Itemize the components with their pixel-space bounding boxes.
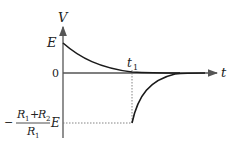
- denominator-r1: R: [26, 125, 35, 138]
- t1-label: t: [127, 56, 132, 70]
- numerator-r2: R: [37, 108, 46, 121]
- t1-subscript: 1: [133, 63, 138, 72]
- numerator-r1-sub: 1: [25, 115, 29, 123]
- e-label: E: [46, 35, 57, 50]
- neg-e-label: E: [50, 116, 60, 130]
- v-axis-label: V: [58, 10, 69, 25]
- recovery-curve: [132, 73, 205, 123]
- decay-curve: [63, 43, 180, 73]
- neg-minus-sign: −: [4, 116, 13, 129]
- numerator-r2-sub: 2: [46, 115, 50, 123]
- voltage-time-diagram: V t E 0 t 1 − R 1 + R 2 R 1 E: [0, 0, 232, 142]
- denominator-r1-sub: 1: [35, 132, 39, 140]
- zero-label: 0: [52, 67, 59, 80]
- numerator-r1: R: [16, 108, 25, 121]
- t-axis-label: t: [221, 65, 227, 80]
